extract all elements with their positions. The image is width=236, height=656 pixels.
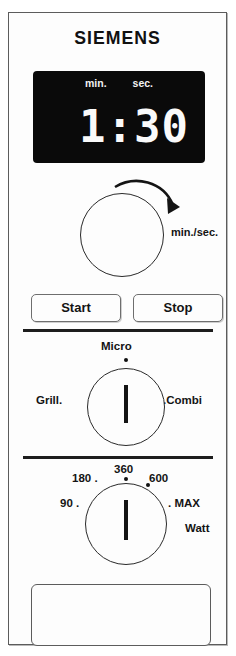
power-label-360: 360: [114, 463, 133, 475]
mode-label-grill: Grill.: [36, 394, 62, 406]
mode-label-micro: Micro: [101, 340, 132, 352]
power-tick-600: [146, 483, 150, 487]
power-dial-pointer: [124, 500, 128, 540]
microwave-control-panel: SIEMENS min. sec. 1:30 min./sec. Start S…: [8, 12, 227, 645]
power-label-max: . MAX: [168, 497, 200, 509]
mode-tick-micro: [124, 358, 128, 362]
power-label-600: 600: [149, 472, 168, 484]
power-label-180: 180 .: [72, 472, 98, 484]
start-button[interactable]: Start: [31, 294, 121, 322]
clockwise-arrow-icon: [113, 177, 183, 223]
minutes-label: min.: [85, 77, 107, 89]
seconds-label: sec.: [133, 77, 153, 89]
brand-logo: SIEMENS: [17, 27, 219, 49]
mode-dial-pointer: [124, 385, 128, 423]
power-label-90: 90 .: [60, 497, 79, 509]
timer-dial-label: min./sec.: [171, 226, 218, 238]
stop-button[interactable]: Stop: [133, 294, 223, 322]
power-unit-label: Watt: [185, 522, 209, 534]
section-divider-upper: [23, 329, 213, 332]
display-time-value: 1:30: [33, 99, 205, 155]
mode-dial[interactable]: [87, 368, 165, 446]
power-tick-360: [124, 477, 128, 481]
mode-label-combi: .Combi: [163, 394, 202, 406]
door-release-bar[interactable]: [31, 584, 211, 646]
power-dial[interactable]: [85, 483, 167, 565]
section-divider-lower: [23, 456, 213, 459]
display-unit-labels: min. sec.: [33, 77, 205, 89]
led-display: min. sec. 1:30: [33, 71, 205, 163]
